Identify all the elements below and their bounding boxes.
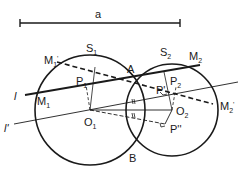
- label-m2: M2: [189, 50, 202, 64]
- segment-a: [20, 19, 180, 27]
- label-m2-prime: M2': [220, 100, 234, 114]
- segment-label: a: [95, 8, 102, 20]
- label-line-l: l: [14, 90, 17, 102]
- label-b: B: [129, 152, 136, 164]
- label-m1-prime: M1': [44, 54, 58, 68]
- label-p1: P1: [76, 75, 87, 89]
- diagram-svg: a S1 S2 A B M1' M1 M2 M2' P1 P2 P' P'' O…: [0, 0, 246, 174]
- label-m1: M1: [37, 95, 50, 109]
- label-a: A: [127, 63, 135, 75]
- label-o1: O1: [84, 116, 97, 130]
- segment-o2-p2prime: [165, 110, 172, 124]
- label-p2: P2: [170, 75, 181, 89]
- label-line-l-prime: l': [4, 122, 9, 134]
- geometry-diagram: a S1 S2 A B M1' M1 M2 M2' P1 P2 P' P'' O…: [0, 0, 246, 174]
- label-s1: S1: [86, 42, 97, 56]
- label-o2: O2: [176, 105, 189, 119]
- perp-o1-p1-b: [90, 67, 95, 110]
- label-p-prime: P': [156, 84, 165, 96]
- label-s2: S2: [160, 46, 171, 60]
- label-p-double-prime: P'': [170, 123, 182, 135]
